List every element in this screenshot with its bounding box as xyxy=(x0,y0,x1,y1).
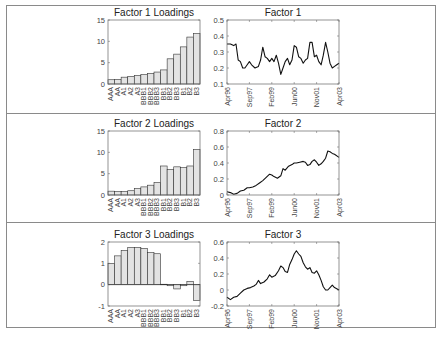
bar-BBB1 xyxy=(141,187,148,195)
bar-BB3 xyxy=(174,285,181,289)
x-tick-label: Sep97 xyxy=(246,198,254,218)
y-tick-label: 0.5 xyxy=(214,16,224,25)
factor3-series-line xyxy=(227,251,339,300)
y-tick-label: 0.8 xyxy=(214,127,224,136)
bar-BBB2 xyxy=(147,253,154,285)
bar-A1 xyxy=(121,192,128,195)
y-tick-label: 0.4 xyxy=(214,159,224,168)
bar-B3 xyxy=(193,149,200,195)
x-tick-label: Feb99 xyxy=(268,87,275,107)
factor3-series-title: Factor 3 xyxy=(265,229,302,240)
factor2-loadings-title: Factor 2 Loadings xyxy=(114,118,194,129)
bar-A1 xyxy=(121,251,128,285)
factor2-series-line xyxy=(227,151,339,194)
x-tick-label: Apr96 xyxy=(224,198,232,217)
factor3-loadings-title: Factor 3 Loadings xyxy=(114,229,194,240)
y-tick-label: -0.2 xyxy=(211,302,224,311)
x-tick-label: Apr96 xyxy=(224,87,232,106)
factor1-series-chart: Factor 10.10.20.30.40.5Apr96Sep97Feb99Ju… xyxy=(214,7,344,107)
bar-AA xyxy=(115,192,122,195)
x-tick-label: Nov01 xyxy=(313,87,320,107)
y-tick-label: 0 xyxy=(101,80,105,89)
factor2-loadings-chart: Factor 2 Loadings051015AAAAAA1A2A3BBB1BB… xyxy=(97,118,200,216)
bar-BB1 xyxy=(161,166,168,195)
bar-BB1 xyxy=(161,70,168,84)
bar-AA xyxy=(115,79,122,84)
plot-area xyxy=(227,242,339,306)
x-tick-label: Nov01 xyxy=(313,198,320,218)
y-tick-label: 0.2 xyxy=(214,270,224,279)
factor1-series-line xyxy=(227,42,339,74)
factor3-loadings-chart: Factor 3 Loadings-1012AAAAAA1A2A3BBB1BBB… xyxy=(98,229,200,327)
x-tick-label: Sep97 xyxy=(246,87,254,107)
bar-BB2 xyxy=(167,59,174,84)
x-tick-label: Jun00 xyxy=(291,87,298,106)
x-tick-label: Apr03 xyxy=(336,309,344,328)
x-tick-label: Nov01 xyxy=(313,309,320,329)
x-tick-label: Jun00 xyxy=(291,309,298,328)
x-tick-label: Jun00 xyxy=(291,198,298,217)
x-tick-label: B3 xyxy=(193,309,200,318)
y-tick-label: 0 xyxy=(220,286,224,295)
factor1-loadings-title: Factor 1 Loadings xyxy=(114,7,194,18)
y-tick-label: 0.2 xyxy=(214,64,224,73)
x-tick-label: Sep97 xyxy=(246,309,254,329)
bar-A2 xyxy=(128,76,135,84)
plot-area xyxy=(227,20,339,84)
bar-BB3 xyxy=(174,167,181,195)
bar-BBB1 xyxy=(141,248,148,284)
bar-AA xyxy=(115,256,122,285)
bar-A3 xyxy=(134,75,141,84)
y-tick-label: 10 xyxy=(97,37,105,46)
bar-BBB1 xyxy=(141,75,148,84)
y-tick-label: 0.3 xyxy=(214,48,224,57)
x-tick-label: Feb99 xyxy=(268,198,275,218)
bar-BBB2 xyxy=(147,73,154,84)
bar-BB3 xyxy=(174,54,181,84)
bar-B1 xyxy=(180,168,187,195)
factor2-series-chart: Factor 200.20.40.60.8Apr96Sep97Feb99Jun0… xyxy=(214,118,344,218)
bar-BBB3 xyxy=(154,254,161,285)
bar-BBB3 xyxy=(154,72,161,84)
x-tick-label: B3 xyxy=(193,198,200,207)
y-tick-label: 0 xyxy=(101,191,105,200)
x-tick-label: Apr03 xyxy=(336,87,344,106)
bar-B2 xyxy=(187,166,194,195)
bar-BB2 xyxy=(167,169,174,195)
y-tick-label: 0.2 xyxy=(214,175,224,184)
bar-BBB3 xyxy=(154,183,161,195)
bar-A2 xyxy=(128,247,135,284)
y-tick-label: 0.1 xyxy=(214,80,224,89)
factor3-series-chart: Factor 3-0.200.20.40.6Apr96Sep97Feb99Jun… xyxy=(211,229,343,329)
factor1-loadings-chart: Factor 1 Loadings051015AAAAAA1A2A3BBB1BB… xyxy=(97,7,200,105)
x-tick-label: Feb99 xyxy=(268,309,275,329)
bar-AAA xyxy=(108,263,115,284)
y-tick-label: 10 xyxy=(97,148,105,157)
factor1-series-title: Factor 1 xyxy=(265,7,302,18)
bar-B2 xyxy=(187,37,194,84)
x-tick-label: Apr96 xyxy=(224,309,232,328)
y-tick-label: 0.6 xyxy=(214,143,224,152)
y-tick-label: 0.6 xyxy=(214,238,224,247)
y-tick-label: 5 xyxy=(101,58,105,67)
bar-A1 xyxy=(121,77,128,84)
y-tick-label: 1 xyxy=(101,259,105,268)
y-tick-label: 0.4 xyxy=(214,32,224,41)
y-tick-label: -1 xyxy=(98,302,105,311)
bar-AAA xyxy=(108,191,115,195)
bar-A3 xyxy=(134,189,141,195)
bar-B3 xyxy=(193,285,200,301)
x-tick-label: Apr03 xyxy=(336,198,344,217)
bar-BBB2 xyxy=(147,185,154,195)
y-tick-label: 0.4 xyxy=(214,254,224,263)
chart-canvas: Factor 1 Loadings051015AAAAAA1A2A3BBB1BB… xyxy=(0,0,445,338)
y-tick-label: 2 xyxy=(101,238,105,247)
y-tick-label: 5 xyxy=(101,169,105,178)
y-tick-label: 15 xyxy=(97,127,105,136)
bar-B1 xyxy=(180,47,187,84)
bar-AAA xyxy=(108,80,115,84)
y-tick-label: 0 xyxy=(101,280,105,289)
bar-A2 xyxy=(128,191,135,195)
factor2-series-title: Factor 2 xyxy=(265,118,302,129)
bar-B3 xyxy=(193,34,200,84)
